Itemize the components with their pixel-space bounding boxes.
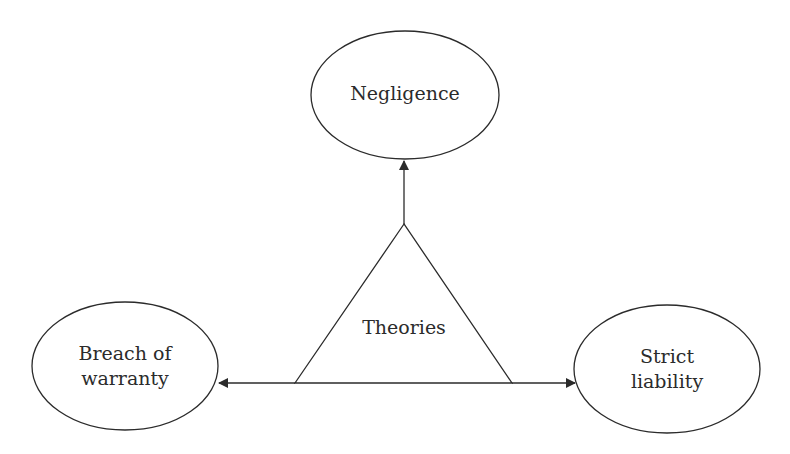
breach-label-line-2: warranty	[32, 366, 218, 391]
theories-triangle	[295, 224, 512, 383]
strict-label-line-2: liability	[574, 369, 760, 394]
negligence-label: Negligence	[311, 81, 499, 106]
strict-liability-label: Strict liability	[574, 344, 760, 394]
theories-label: Theories	[334, 315, 474, 340]
theories-label-text: Theories	[334, 315, 474, 340]
breach-of-warranty-label: Breach of warranty	[32, 341, 218, 391]
strict-label-line-1: Strict	[574, 344, 760, 369]
breach-label-line-1: Breach of	[32, 341, 218, 366]
negligence-label-line: Negligence	[311, 81, 499, 106]
